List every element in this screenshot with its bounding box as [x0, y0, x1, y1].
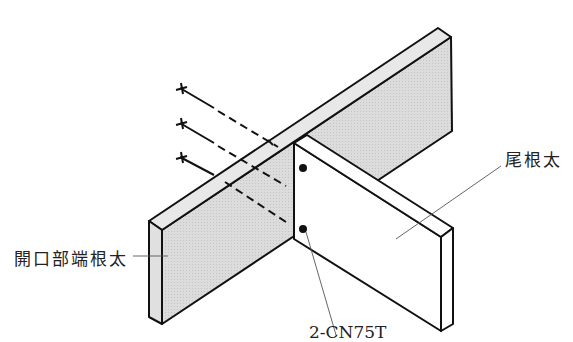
header-joist-end-face: [149, 221, 162, 324]
label-tail-joist: 尾根太: [505, 146, 562, 171]
toe-nail-dot-upper: [299, 164, 307, 172]
joist-connection-diagram: [0, 0, 573, 342]
toe-nail-dot-lower: [299, 225, 307, 233]
label-header-joist: 開口部端根太: [14, 245, 128, 270]
tail-joist-end-face: [441, 228, 453, 331]
label-nails: 2-CN75T: [309, 322, 386, 342]
nail-1: [176, 83, 278, 147]
